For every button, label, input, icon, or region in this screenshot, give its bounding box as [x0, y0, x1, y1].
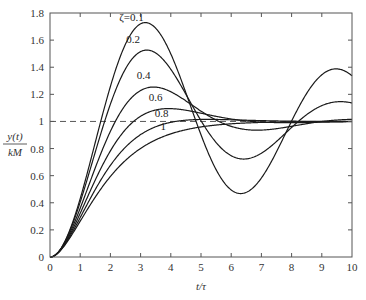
- x-tick-label: 10: [347, 261, 359, 273]
- y-tick-label: 1.6: [30, 34, 44, 46]
- curve-label: 0.8: [155, 107, 169, 119]
- x-tick-label: 0: [47, 261, 53, 273]
- step-response-chart: 012345678910 00.20.40.60.811.21.41.61.8 …: [0, 0, 366, 300]
- x-axis-label: t/τ: [196, 280, 207, 292]
- x-tick-label: 4: [168, 261, 174, 273]
- curve-zeta-0-2: [50, 50, 352, 257]
- curve-labels: ζ=0.10.20.40.60.81: [119, 11, 169, 131]
- y-tick-label: 1.4: [30, 61, 44, 73]
- response-curves: [50, 23, 352, 257]
- curve-label: 0.6: [149, 91, 163, 103]
- y-tick-label: 0.2: [30, 224, 44, 236]
- y-tick-label: 1.8: [30, 7, 44, 19]
- x-tick-label: 9: [319, 261, 325, 273]
- curve-label: ζ=0.1: [119, 11, 144, 24]
- curve-zeta-0-4: [50, 87, 352, 257]
- x-tick-label: 1: [77, 261, 83, 273]
- y-tick-label: 0.4: [30, 197, 44, 209]
- x-tick-label: 7: [259, 261, 265, 273]
- curve-label: 0.4: [137, 69, 151, 81]
- y-tick-label: 1: [39, 115, 45, 127]
- x-tick-label: 6: [228, 261, 234, 273]
- x-tick-label: 5: [198, 261, 204, 273]
- curve-label: 0.2: [126, 33, 140, 45]
- y-tick-label: 1.2: [30, 88, 44, 100]
- y-tick-label: 0.6: [30, 170, 44, 182]
- x-axis-ticks: 012345678910: [47, 13, 358, 273]
- y-axis-label: y(t) kM: [3, 130, 27, 158]
- curve-label: 1: [161, 120, 167, 132]
- y-tick-label: 0: [39, 251, 45, 263]
- y-axis-label-numerator: y(t): [6, 130, 23, 143]
- x-tick-label: 8: [289, 261, 295, 273]
- curve-zeta-0-6: [50, 109, 352, 257]
- x-tick-label: 2: [108, 261, 114, 273]
- y-axis-label-denominator: kM: [8, 146, 23, 158]
- x-tick-label: 3: [138, 261, 144, 273]
- y-tick-label: 0.8: [30, 143, 44, 155]
- curve-zeta-0-1: [50, 23, 352, 257]
